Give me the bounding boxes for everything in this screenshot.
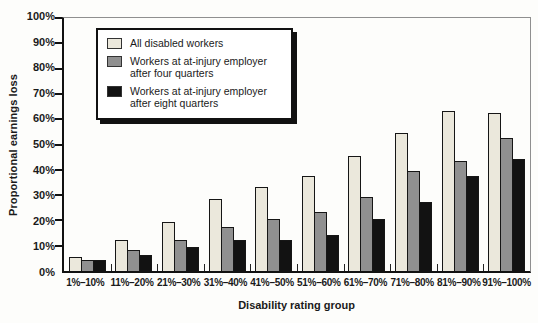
x-axis-tick [297, 264, 298, 271]
y-axis-tick [55, 169, 62, 171]
x-tick-label: 21%–30% [155, 277, 202, 288]
bar-group-8 [390, 18, 437, 271]
x-tick-label: 11%–20% [109, 277, 156, 288]
x-axis-tick [204, 264, 205, 271]
legend-swatch-light [107, 38, 122, 49]
y-tick-label: 30% [15, 189, 55, 201]
y-axis-tick [55, 42, 62, 44]
y-axis-tick [55, 194, 62, 196]
earnings-loss-bar-chart: Proportional earnings loss 1%–10%11%–20%… [0, 0, 538, 323]
legend-item-all-disabled-workers: All disabled workers [107, 37, 283, 50]
y-tick-label: 20% [15, 215, 55, 227]
legend-label: Workers at at-injury employer after four… [130, 55, 283, 80]
legend-label: All disabled workers [130, 37, 223, 50]
x-tick-label: 51%–60% [295, 277, 342, 288]
bar-group-9 [437, 18, 484, 271]
y-axis-tick [55, 17, 62, 19]
y-tick-label: 70% [15, 87, 55, 99]
y-tick-label: 10% [15, 240, 55, 252]
bar-group-7 [344, 18, 391, 271]
bar [279, 240, 292, 271]
bar-group-6 [297, 18, 344, 271]
x-axis-title: Disability rating group [62, 299, 531, 311]
y-axis-tick [55, 93, 62, 95]
x-axis-tick [437, 264, 438, 271]
x-tick-label: 41%–50% [249, 277, 296, 288]
legend-label: Workers at at-injury employer after eigh… [130, 85, 283, 110]
x-axis-tick [390, 264, 391, 271]
x-tick-label: 1%–10% [62, 277, 109, 288]
legend-swatch-gray [107, 56, 122, 67]
y-tick-label: 50% [15, 138, 55, 150]
x-tick-label: 31%–40% [202, 277, 249, 288]
y-tick-label: 90% [15, 36, 55, 48]
legend: All disabled workers Workers at at-injur… [96, 28, 293, 120]
y-tick-label: 60% [15, 112, 55, 124]
bar [466, 176, 479, 271]
y-axis-tick [55, 118, 62, 120]
x-axis-tick [344, 264, 345, 271]
legend-item-eight-quarters: Workers at at-injury employer after eigh… [107, 85, 283, 110]
bar [419, 202, 432, 271]
bar [512, 159, 525, 271]
x-tick-label: 61%–70% [342, 277, 389, 288]
bar-group-10 [483, 18, 530, 271]
bar [233, 240, 246, 271]
bar [372, 219, 385, 271]
x-axis-tick [111, 264, 112, 271]
bar [326, 235, 339, 271]
x-axis-tick [483, 264, 484, 271]
y-tick-label: 100% [15, 10, 55, 22]
y-axis-tick [55, 245, 62, 247]
bar [186, 247, 199, 271]
y-axis-tick [55, 219, 62, 221]
x-axis-tick [250, 264, 251, 271]
bar [139, 255, 152, 271]
x-axis-tick [157, 264, 158, 271]
y-axis-tick [55, 144, 62, 146]
x-tick-label: 71%–80% [389, 277, 436, 288]
y-tick-label: 80% [15, 61, 55, 73]
y-tick-label: 0% [15, 266, 55, 278]
x-axis-tick-labels: 1%–10%11%–20%21%–30%31%–40%41%–50%51%–60… [62, 277, 531, 288]
x-tick-label: 81%–90% [436, 277, 483, 288]
legend-swatch-black [107, 86, 122, 97]
y-axis-tick [55, 68, 62, 70]
bar [93, 260, 106, 271]
x-tick-label: 91%–100% [482, 277, 531, 288]
legend-item-four-quarters: Workers at at-injury employer after four… [107, 55, 283, 80]
y-tick-label: 40% [15, 164, 55, 176]
